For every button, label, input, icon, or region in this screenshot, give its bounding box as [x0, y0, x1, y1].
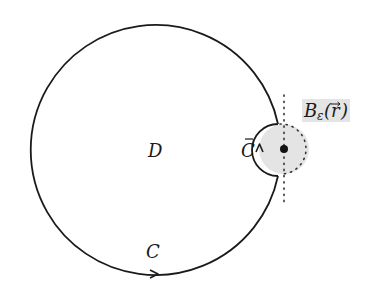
label-B-close-paren: ) — [340, 100, 348, 121]
label-B-subscript: ε — [317, 109, 323, 123]
label-C-bar: C — [241, 140, 255, 161]
center-point-r — [280, 145, 288, 153]
label-D: D — [147, 140, 163, 161]
diagram-canvas: D C C B ε ( r ) — [0, 0, 378, 294]
label-C: C — [146, 241, 160, 262]
label-B: B — [303, 100, 317, 121]
arrow-icon-C — [150, 270, 158, 278]
